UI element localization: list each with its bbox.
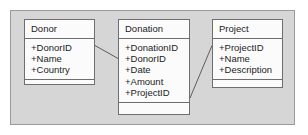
uml-class-donor-title: Donor bbox=[25, 20, 94, 39]
uml-attribute: +DonorID bbox=[125, 53, 189, 64]
uml-class-project-operations bbox=[213, 80, 282, 89]
uml-class-donor[interactable]: Donor +DonorID +Name +Country bbox=[24, 19, 95, 85]
uml-attribute: +Amount bbox=[125, 76, 189, 87]
uml-attribute: +DonorID bbox=[31, 42, 94, 53]
diagram-canvas: Donor +DonorID +Name +Country Donation +… bbox=[0, 0, 308, 135]
uml-attribute: +ProjectID bbox=[125, 87, 189, 98]
uml-class-project-attributes: +ProjectID +Name +Description bbox=[213, 39, 282, 80]
uml-class-project[interactable]: Project +ProjectID +Name +Description bbox=[212, 19, 283, 88]
uml-class-project-title: Project bbox=[213, 20, 282, 39]
uml-class-donation-title: Donation bbox=[119, 20, 189, 39]
uml-attribute: +Date bbox=[125, 64, 189, 75]
uml-attribute: +Name bbox=[31, 53, 94, 64]
uml-class-donation-operations bbox=[119, 103, 189, 114]
uml-class-donation[interactable]: Donation +DonationID +DonorID +Date +Amo… bbox=[118, 19, 190, 115]
uml-attribute: +Name bbox=[219, 53, 282, 64]
uml-attribute: +ProjectID bbox=[219, 42, 282, 53]
uml-attribute: +Description bbox=[219, 64, 282, 75]
uml-attribute: +DonationID bbox=[125, 42, 189, 53]
uml-class-donation-attributes: +DonationID +DonorID +Date +Amount +Proj… bbox=[119, 39, 189, 103]
uml-class-donor-operations bbox=[25, 80, 94, 89]
uml-attribute: +Country bbox=[31, 64, 94, 75]
uml-class-donor-attributes: +DonorID +Name +Country bbox=[25, 39, 94, 80]
